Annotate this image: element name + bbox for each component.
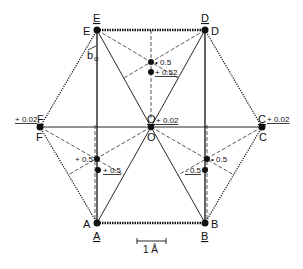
edge-C-B bbox=[205, 127, 262, 223]
edge-E-F bbox=[40, 30, 97, 127]
annotation-center: + 0.02 bbox=[156, 116, 179, 125]
annotation-left-upper: + 0.5 bbox=[75, 155, 94, 164]
atom-top-upper bbox=[148, 59, 154, 65]
edge-E-O bbox=[97, 30, 151, 127]
atom-left-upper bbox=[94, 156, 100, 162]
label-B-right: B bbox=[211, 218, 218, 230]
label-A-below: A bbox=[93, 230, 101, 242]
atom-left-lower bbox=[95, 167, 101, 173]
label-E-above: E bbox=[93, 12, 100, 24]
annotation-right-upper: • 0.5 bbox=[211, 155, 228, 164]
vector-b-subscript: o bbox=[94, 54, 99, 63]
point-E bbox=[94, 27, 101, 34]
edge-D-O bbox=[151, 30, 205, 127]
atom-top-lower bbox=[148, 69, 154, 75]
label-C-above: C bbox=[258, 113, 266, 125]
label-F-above: F bbox=[37, 113, 44, 125]
label-E-left: E bbox=[83, 25, 90, 37]
vector-b-label: b bbox=[87, 49, 93, 61]
point-B bbox=[202, 220, 209, 227]
annotation-C: + 0.02 bbox=[267, 115, 290, 124]
annotation-top-upper: • 0.5 bbox=[155, 58, 172, 67]
label-O-above: O bbox=[147, 113, 156, 125]
label-C-below: C bbox=[259, 131, 267, 143]
crystal-lattice-diagram: E E D D F F C C A A B B O O b o • 0.5 + … bbox=[0, 0, 303, 269]
scale-bar-label: 1 Å bbox=[143, 243, 158, 255]
atom-right-upper bbox=[204, 156, 210, 162]
annotation-right-lower: - 0.5 bbox=[185, 166, 202, 175]
label-F-below: F bbox=[36, 131, 43, 143]
point-D bbox=[202, 27, 209, 34]
label-D-above: D bbox=[201, 12, 209, 24]
edge-D-C bbox=[205, 30, 262, 127]
annotation-F: + 0.02 bbox=[15, 115, 38, 124]
point-A bbox=[94, 220, 101, 227]
edge-F-A bbox=[40, 127, 97, 223]
label-B-below: B bbox=[201, 230, 208, 242]
annotation-top-lower: + 0.52 bbox=[155, 68, 178, 77]
label-A-left: A bbox=[83, 218, 91, 230]
annotation-left-lower: + 0.5 bbox=[103, 166, 122, 175]
label-D-right: D bbox=[211, 25, 219, 37]
label-O-below: O bbox=[147, 131, 156, 143]
atom-right-lower bbox=[202, 167, 208, 173]
